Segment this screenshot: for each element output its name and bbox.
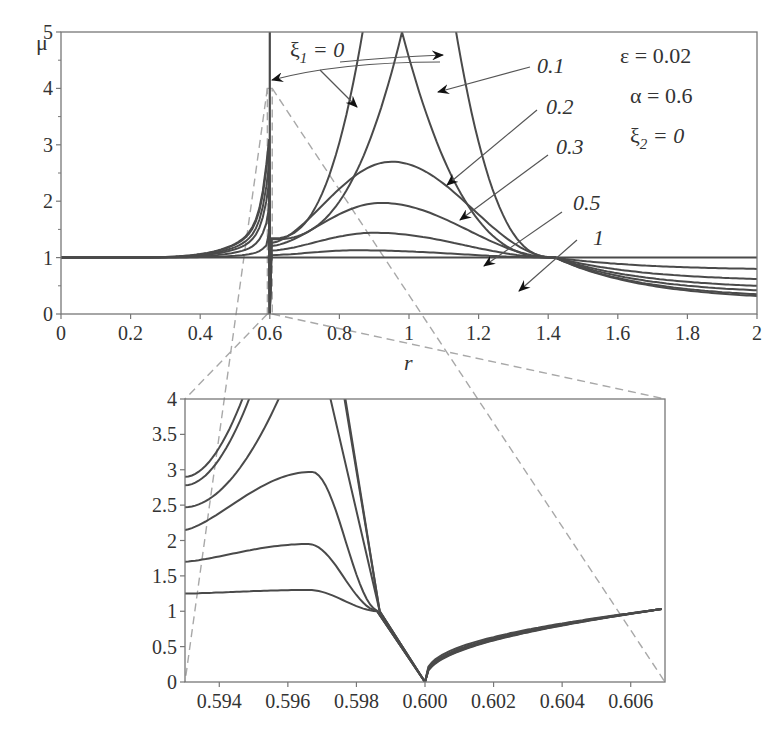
param-alpha-text: α = 0.6	[630, 83, 692, 108]
inset-curve------0-2	[185, 378, 662, 682]
x-tick-label: 2	[752, 322, 762, 344]
figure: 00.20.40.60.811.21.41.61.82012345 μ r ε …	[0, 0, 784, 735]
x-tick-label: 1.6	[605, 322, 630, 344]
annotation-xi1-value: = 0	[307, 37, 344, 62]
y-tick-label: 2	[43, 190, 53, 212]
inset-plot: 0.5940.5960.5980.6000.6020.6040.60600.51…	[152, 378, 665, 712]
x-tick-label: 0.600	[403, 690, 448, 712]
annotation-0-2: 0.2	[546, 94, 574, 119]
y-tick-label: 1.5	[152, 565, 177, 587]
x-tick-label: 0.602	[471, 690, 516, 712]
x-tick-label: 1	[404, 322, 414, 344]
inset-curve------0-3	[185, 472, 662, 682]
x-tick-label: 1.4	[536, 322, 561, 344]
curve------0-1	[61, 32, 757, 314]
curve------0-5	[61, 207, 757, 314]
arrow-xi1-0-to-peak	[340, 55, 443, 62]
inset-curves	[185, 378, 662, 682]
y-tick-label: 2	[167, 530, 177, 552]
x-tick-label: 1.8	[675, 322, 700, 344]
param-xi2-value: = 0	[647, 123, 684, 148]
x-tick-label: 0.594	[197, 690, 242, 712]
param-xi2: ξ2 = 0	[630, 123, 684, 152]
y-tick-label: 2.5	[152, 494, 177, 516]
x-axis-title: r	[404, 350, 413, 375]
inset-curve------0-5	[185, 544, 662, 682]
y-tick-label: 0	[167, 671, 177, 693]
y-tick-label: 0.5	[152, 636, 177, 658]
annotation-0-5: 0.5	[573, 190, 601, 215]
plot-frame	[61, 32, 757, 314]
y-tick-label: 4	[167, 388, 177, 410]
inset-curve------0	[185, 378, 662, 682]
y-tick-label: 3	[167, 459, 177, 481]
annotation-xi1-subscript: 1	[300, 50, 308, 66]
param-xi2-symbol: ξ	[630, 123, 640, 148]
curve------0-2	[61, 162, 757, 314]
arrow-0-1	[438, 67, 530, 92]
main-plot: 00.20.40.60.811.21.41.61.82012345 μ r ε …	[36, 4, 762, 375]
main-axes: 00.20.40.60.811.21.41.61.82012345	[43, 21, 762, 344]
y-tick-label: 4	[43, 77, 53, 99]
y-tick-label: 3	[43, 134, 53, 156]
annotation-1: 1	[593, 225, 604, 250]
x-tick-label: 0.6	[257, 322, 282, 344]
x-tick-label: 0	[56, 322, 66, 344]
inset-curve------0-1	[185, 378, 662, 682]
x-tick-label: 0.606	[608, 690, 653, 712]
arrow-0-3	[460, 155, 548, 220]
annotation-0-3: 0.3	[556, 134, 584, 159]
x-tick-label: 1.2	[466, 322, 491, 344]
inset-axes: 0.5940.5960.5980.6000.6020.6040.60600.51…	[152, 388, 665, 712]
y-tick-label: 1	[167, 600, 177, 622]
param-epsilon: ε = 0.02	[620, 43, 691, 68]
chart-canvas: 00.20.40.60.811.21.41.61.82012345 μ r ε …	[0, 0, 784, 735]
y-tick-label: 3.5	[152, 423, 177, 445]
x-tick-label: 0.596	[265, 690, 310, 712]
y-tick-label: 0	[43, 303, 53, 325]
x-tick-label: 0.2	[118, 322, 143, 344]
x-tick-label: 0.8	[327, 322, 352, 344]
arrow-1	[519, 240, 577, 291]
y-tick-label: 1	[43, 247, 53, 269]
zoom-connector-lines	[185, 88, 665, 682]
param-alpha: α = 0.6	[630, 83, 692, 108]
x-tick-label: 0.598	[334, 690, 379, 712]
inset-curve------1	[185, 590, 662, 682]
x-tick-label: 0.4	[188, 322, 213, 344]
annotation-0-1: 0.1	[537, 53, 565, 78]
param-epsilon-text: ε = 0.02	[620, 43, 691, 68]
y-axis-title: μ	[36, 30, 48, 55]
annotation-xi1-symbol: ξ	[290, 37, 300, 62]
connector-right	[272, 88, 665, 682]
annotation-xi1-0: ξ1 = 0	[290, 37, 344, 66]
x-tick-label: 0.604	[540, 690, 585, 712]
